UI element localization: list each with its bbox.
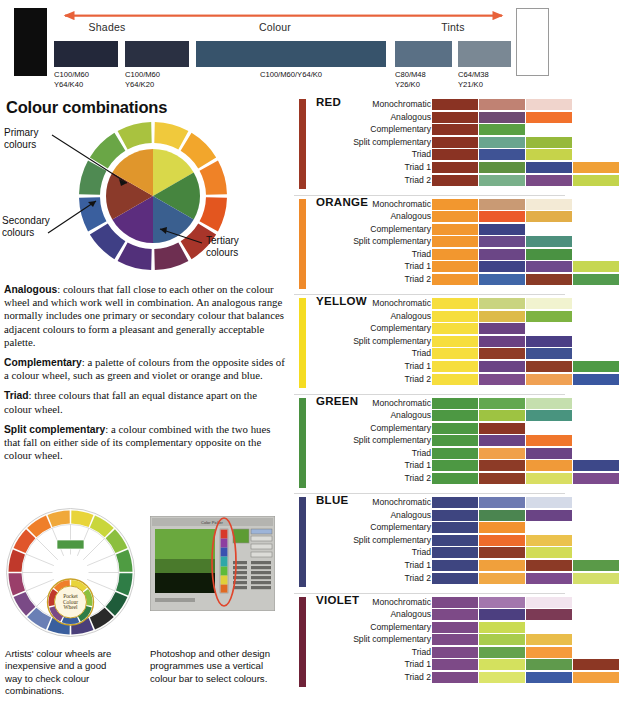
colour-swatch (432, 672, 478, 683)
colour-swatch (479, 336, 525, 347)
colour-swatch (573, 672, 619, 683)
swatch-strip (432, 398, 572, 409)
tone-swatch-base-colour (196, 41, 386, 67)
scheme-label: Triad 2 (405, 472, 431, 485)
caption-photoshop-picker: Photoshop and other design programmes us… (150, 648, 278, 685)
scheme-row: Split complementary (294, 633, 565, 646)
colour-swatch (479, 261, 525, 272)
colour-swatch (479, 311, 525, 322)
scheme-row: Triad (294, 347, 565, 360)
colour-swatch (479, 374, 525, 385)
swatch-strip (432, 274, 619, 285)
scheme-label: Split complementary (353, 633, 431, 646)
colour-swatch (479, 99, 525, 110)
scheme-label: Triad (412, 248, 431, 261)
colour-swatch (573, 473, 619, 484)
definition-complementary: Complementary: a palette of colours from… (4, 356, 286, 382)
colour-swatch (432, 224, 478, 235)
colour-swatch (479, 298, 525, 309)
definitions-body-copy: Analogous: colours that fall close to ea… (4, 283, 286, 469)
colour-swatch (479, 124, 525, 135)
colour-swatch (479, 573, 525, 584)
colour-swatch (573, 659, 619, 670)
swatch-strip (432, 510, 572, 521)
scheme-row: Monochromatic (294, 496, 565, 509)
scheme-label: Triad (412, 646, 431, 659)
scheme-label: Analogous (390, 608, 431, 621)
colour-swatch (479, 560, 525, 571)
colour-swatch (526, 510, 572, 521)
colour-swatch (479, 137, 525, 148)
colour-swatch (573, 261, 619, 272)
scheme-label: Analogous (390, 210, 431, 223)
colour-swatch (479, 622, 525, 633)
colour-swatch (479, 659, 525, 670)
scheme-row: Triad 1 (294, 260, 565, 273)
colour-swatch (432, 149, 478, 160)
page-title: Colour combinations (6, 98, 167, 117)
colour-swatch (526, 573, 572, 584)
scheme-rows: MonochromaticAnalogousComplementarySplit… (294, 198, 565, 286)
colour-swatch (526, 298, 572, 309)
colour-swatch (526, 199, 572, 210)
colour-swatch (573, 175, 619, 186)
colour-swatch (526, 547, 572, 558)
colour-swatch (432, 522, 478, 533)
colour-combination-panels: REDMonochromaticAnalogousComplementarySp… (294, 95, 565, 702)
colour-swatch (479, 497, 525, 508)
scheme-row: Split complementary (294, 335, 565, 348)
colour-swatch (479, 510, 525, 521)
swatch-strip (432, 410, 572, 421)
colour-swatch (526, 261, 572, 272)
combo-panel-violet: VIOLETMonochromaticAnalogousComplementar… (294, 593, 565, 691)
swatch-strip (432, 99, 572, 110)
tone-caption-shade-k20: C100/M60 Y64/K20 (125, 70, 195, 89)
scheme-rows: MonochromaticAnalogousComplementarySplit… (294, 98, 565, 186)
scheme-label: Triad (412, 546, 431, 559)
scheme-label: Monochromatic (372, 98, 431, 111)
colour-swatch (432, 560, 478, 571)
scheme-label: Triad (412, 148, 431, 161)
colour-swatch (432, 323, 478, 334)
swatch-strip (432, 460, 619, 471)
colour-swatch (432, 274, 478, 285)
scheme-row: Monochromatic (294, 297, 565, 310)
scheme-row: Split complementary (294, 434, 565, 447)
colour-swatch (526, 236, 572, 247)
swatch-strip (432, 435, 572, 446)
colour-swatch (526, 137, 572, 148)
wheel-outer-segment (79, 161, 106, 195)
colour-swatch (432, 261, 478, 272)
scheme-label: Analogous (390, 310, 431, 323)
combo-panel-red: REDMonochromaticAnalogousComplementarySp… (294, 95, 565, 193)
scheme-row: Complementary (294, 422, 565, 435)
swatch-strip (432, 249, 572, 260)
scheme-label: Analogous (390, 111, 431, 124)
colour-swatch (432, 211, 478, 222)
swatch-strip (432, 298, 572, 309)
swatch-strip (432, 573, 619, 584)
colour-swatch (526, 659, 572, 670)
swatch-strip (432, 659, 619, 670)
colour-swatch (432, 597, 478, 608)
swatch-strip (432, 560, 619, 571)
definition-triad: Triad: three colours that fall an equal … (4, 389, 286, 415)
scheme-label: Triad 2 (405, 671, 431, 684)
colour-swatch (479, 199, 525, 210)
colour-swatch (432, 124, 478, 135)
colour-swatch (479, 609, 525, 620)
colour-swatch (526, 473, 572, 484)
scheme-label: Triad 2 (405, 273, 431, 286)
colour-swatch (526, 374, 572, 385)
scheme-label: Complementary (370, 621, 431, 634)
colour-swatch (526, 348, 572, 359)
colour-swatch (526, 99, 572, 110)
scheme-row: Triad (294, 248, 565, 261)
scheme-row: Complementary (294, 223, 565, 236)
scheme-row: Monochromatic (294, 397, 565, 410)
colour-swatch (526, 149, 572, 160)
combo-panel-yellow: YELLOWMonochromaticAnalogousComplementar… (294, 294, 565, 392)
colour-swatch (526, 497, 572, 508)
colour-swatch (526, 361, 572, 372)
scheme-label: Triad 2 (405, 174, 431, 187)
